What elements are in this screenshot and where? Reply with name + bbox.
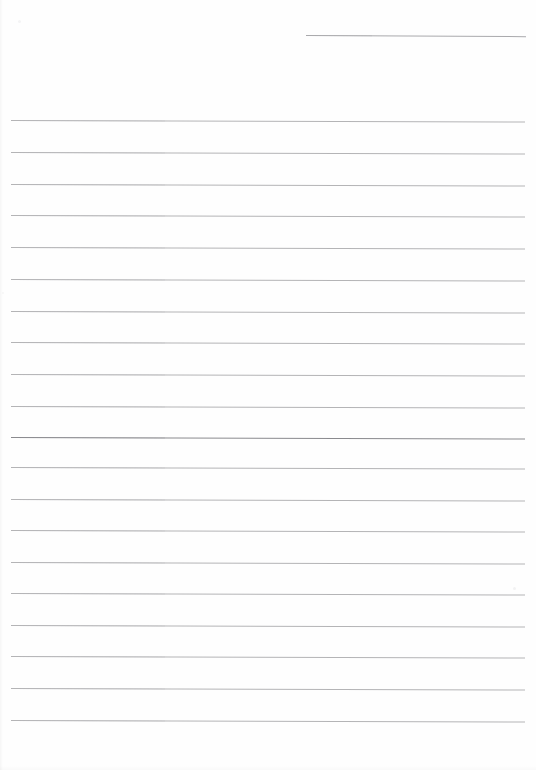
- ruled-line: [11, 120, 525, 122]
- ruled-line: [11, 499, 525, 501]
- paper-surface: [0, 0, 536, 770]
- ruled-line: [11, 406, 525, 408]
- ruled-line: [11, 720, 525, 722]
- ruled-line: [11, 467, 525, 469]
- ruled-line: [11, 184, 525, 186]
- ruled-line: [11, 593, 525, 595]
- ruled-line: [11, 688, 525, 690]
- ruled-line: [11, 215, 525, 217]
- scan-speck: [2, 292, 4, 294]
- ruled-line: [11, 530, 525, 532]
- ruled-line: [11, 562, 525, 564]
- ruled-line: [11, 247, 525, 249]
- scan-speck: [18, 20, 21, 23]
- top-right-rule: [306, 35, 526, 37]
- ruled-line: [11, 437, 525, 439]
- left-edge-shadow: [0, 0, 3, 770]
- ruled-line: [11, 152, 525, 154]
- ruled-line: [11, 625, 525, 627]
- scanned-page: [0, 0, 536, 770]
- ruled-line: [11, 311, 525, 313]
- scan-speck: [513, 587, 516, 590]
- bottom-edge-shadow: [0, 766, 536, 770]
- ruled-line: [11, 342, 525, 344]
- ruled-line: [11, 374, 525, 376]
- ruled-line: [11, 279, 525, 281]
- ruled-line: [11, 656, 525, 658]
